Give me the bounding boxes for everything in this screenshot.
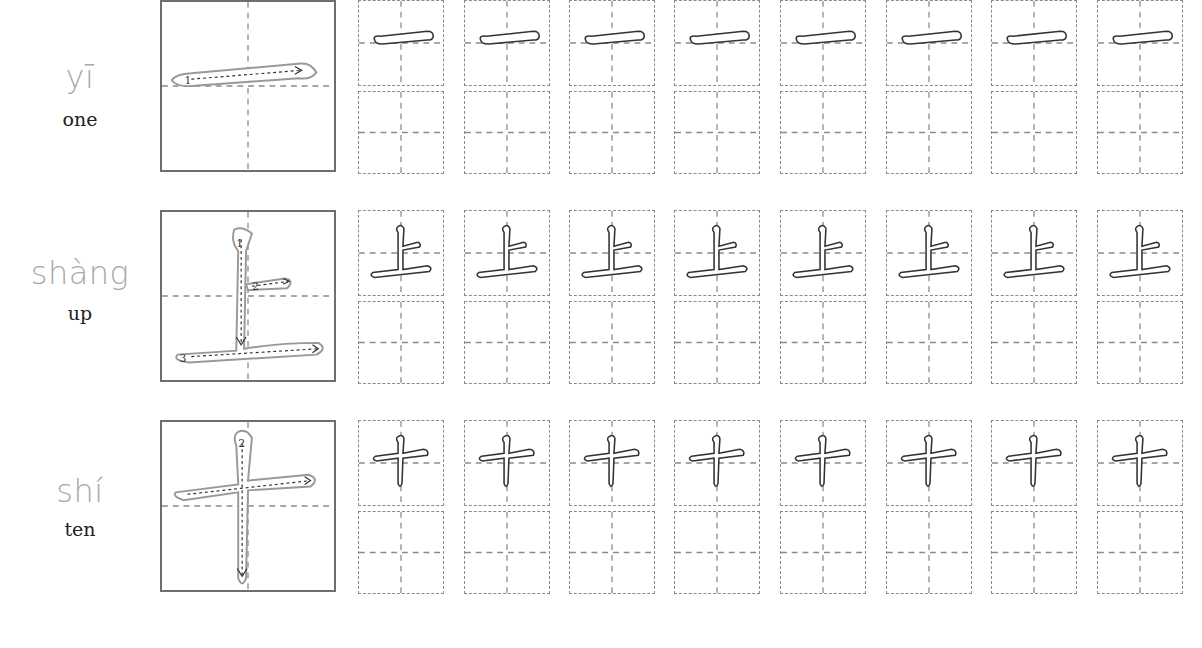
blank-practice-cell[interactable] — [780, 301, 866, 384]
stroke-order-diagram: 2 — [162, 422, 334, 590]
blank-practice-cell[interactable] — [358, 91, 444, 174]
svg-text:1: 1 — [185, 74, 192, 87]
blank-practice-cell[interactable] — [358, 301, 444, 384]
svg-text:2: 2 — [238, 437, 245, 450]
english-meaning: up — [0, 302, 160, 324]
blank-practice-cell[interactable] — [674, 511, 760, 594]
trace-cell — [1097, 210, 1183, 296]
blank-practice-cell[interactable] — [780, 91, 866, 174]
blank-practice-cell[interactable] — [569, 91, 655, 174]
blank-practice-cell[interactable] — [991, 91, 1077, 174]
trace-cell — [358, 210, 444, 296]
pinyin-label: shí — [0, 472, 160, 510]
trace-cell — [886, 210, 972, 296]
blank-practice-cell[interactable] — [464, 511, 550, 594]
blank-practice-cell[interactable] — [569, 301, 655, 384]
english-meaning: one — [0, 108, 160, 130]
stroke-order-diagram: 123 — [162, 212, 334, 380]
svg-text:2: 2 — [252, 280, 259, 293]
trace-cell — [780, 0, 866, 86]
blank-practice-cell[interactable] — [886, 301, 972, 384]
trace-cell — [1097, 0, 1183, 86]
svg-text:1: 1 — [236, 237, 243, 250]
blank-practice-cell[interactable] — [674, 91, 760, 174]
trace-cell — [358, 420, 444, 506]
blank-practice-cell[interactable] — [886, 511, 972, 594]
blank-practice-cell[interactable] — [1097, 511, 1183, 594]
english-meaning: ten — [0, 518, 160, 540]
character-row: shíten2 — [0, 420, 1202, 600]
trace-cell — [886, 420, 972, 506]
pinyin-label: yī — [0, 58, 160, 96]
character-row: yīone1 — [0, 0, 1202, 180]
trace-cell — [464, 420, 550, 506]
blank-practice-cell[interactable] — [358, 511, 444, 594]
blank-practice-cell[interactable] — [1097, 301, 1183, 384]
trace-cell — [569, 210, 655, 296]
stroke-order-diagram: 1 — [162, 2, 334, 170]
blank-practice-cell[interactable] — [991, 301, 1077, 384]
pinyin-label: shàng — [0, 254, 160, 292]
trace-cell — [569, 0, 655, 86]
trace-cell — [991, 210, 1077, 296]
blank-practice-cell[interactable] — [464, 91, 550, 174]
trace-cell — [991, 0, 1077, 86]
stroke-order-box: 2 — [160, 420, 336, 592]
stroke-order-box: 123 — [160, 210, 336, 382]
trace-cell — [464, 210, 550, 296]
blank-practice-cell[interactable] — [1097, 91, 1183, 174]
trace-cell — [886, 0, 972, 86]
trace-cell — [569, 420, 655, 506]
blank-practice-cell[interactable] — [780, 511, 866, 594]
blank-practice-cell[interactable] — [886, 91, 972, 174]
trace-cell — [1097, 420, 1183, 506]
trace-cell — [674, 0, 760, 86]
trace-cell — [780, 420, 866, 506]
trace-cell — [674, 210, 760, 296]
blank-practice-cell[interactable] — [464, 301, 550, 384]
trace-cell — [991, 420, 1077, 506]
blank-practice-cell[interactable] — [991, 511, 1077, 594]
trace-cell — [358, 0, 444, 86]
stroke-order-box: 1 — [160, 0, 336, 172]
blank-practice-cell[interactable] — [569, 511, 655, 594]
character-row: shàngup123 — [0, 210, 1202, 390]
trace-cell — [464, 0, 550, 86]
trace-cell — [674, 420, 760, 506]
svg-text:3: 3 — [180, 352, 187, 365]
blank-practice-cell[interactable] — [674, 301, 760, 384]
trace-cell — [780, 210, 866, 296]
